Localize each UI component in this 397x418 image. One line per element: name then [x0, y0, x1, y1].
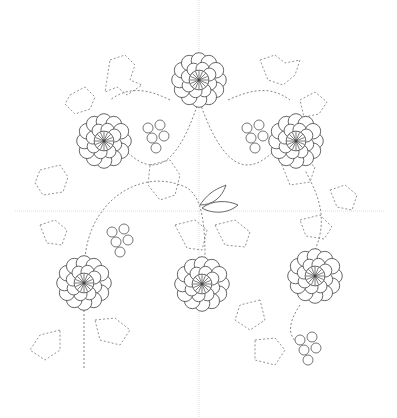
flowers [57, 53, 343, 312]
flower-top [172, 53, 227, 108]
berries-lower-right [295, 332, 321, 365]
flower-lower-left [57, 256, 112, 311]
flower-upper-left [77, 114, 132, 169]
embroidery-pattern [0, 0, 397, 418]
flower-lower-center [175, 257, 230, 312]
flower-lower-right [288, 249, 343, 304]
berries-upper-left [143, 120, 169, 153]
berries-mid-left [107, 224, 133, 257]
pattern-canvas [0, 0, 397, 418]
bird [200, 185, 238, 212]
berries-upper-right [242, 120, 268, 153]
flower-upper-right [269, 114, 324, 169]
